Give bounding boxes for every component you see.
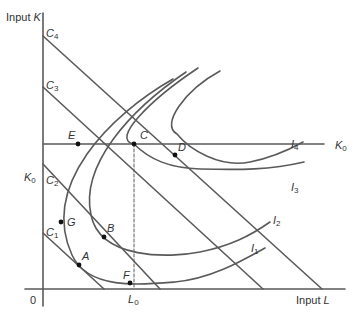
point-f <box>128 281 133 286</box>
point-e-label: E <box>68 130 75 141</box>
point-e <box>76 142 81 147</box>
isocost-c3 <box>43 87 263 289</box>
isocost-c1-label: C1 <box>46 227 58 240</box>
k0-left-label: K0 <box>24 172 36 185</box>
point-f-label: F <box>123 270 130 281</box>
point-d <box>173 153 178 158</box>
y-axis-label: Input K <box>6 12 41 23</box>
isoquant-isocost-diagram: Input K Input L 0 K0 K0 L0 C1 C2 C3 C4 I… <box>0 0 359 320</box>
origin-label: 0 <box>30 295 36 306</box>
isocost-c1 <box>43 233 104 289</box>
isoquant-i2-label: I2 <box>273 215 281 228</box>
diagram-svg <box>0 0 359 320</box>
point-g-label: G <box>67 217 76 228</box>
point-b <box>102 235 107 240</box>
isoquant-i3-label: I3 <box>291 182 299 195</box>
isoquant-i4 <box>172 71 303 163</box>
isocost-c2-label: C2 <box>46 175 58 188</box>
isoquant-i1-label: I1 <box>251 243 259 256</box>
point-c-label: C <box>140 130 148 141</box>
isocost-c2 <box>43 164 160 289</box>
l0-label: L0 <box>128 294 139 307</box>
point-d-label: D <box>178 142 186 153</box>
k0-right-label: K0 <box>335 140 347 153</box>
point-a <box>77 263 82 268</box>
x-axis-label: Input L <box>296 295 330 306</box>
isoquant-i1 <box>64 79 265 284</box>
point-c <box>132 142 137 147</box>
point-g <box>59 220 64 225</box>
point-b-label: B <box>107 223 114 234</box>
point-a-label: A <box>82 251 89 262</box>
isocost-c3-label: C3 <box>46 80 58 93</box>
isocost-c4-label: C4 <box>46 28 58 41</box>
isoquant-i4-label: I4 <box>291 139 299 152</box>
